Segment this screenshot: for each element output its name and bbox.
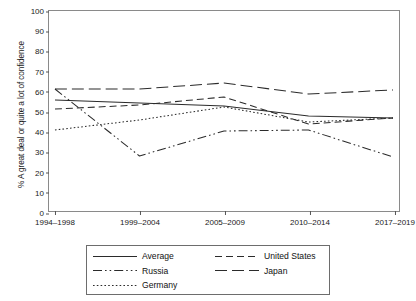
series-line-germany: [55, 107, 393, 130]
series-line-average: [55, 100, 393, 118]
legend-label: Russia: [142, 266, 168, 276]
legend-label: Germany: [142, 280, 177, 290]
dashed-line-swatch: [215, 252, 259, 261]
solid-line-swatch: [93, 252, 137, 261]
y-tick-label: 50: [35, 108, 49, 117]
legend-item-average[interactable]: Average: [93, 251, 215, 261]
x-tick-label: 1999–2004: [120, 211, 160, 227]
chart-figure: % A great deal or quite a lot of confide…: [0, 0, 416, 301]
chart-legend: AverageUnited StatesRussiaJapanGermany: [86, 245, 330, 295]
long-dash-line-swatch: [215, 266, 259, 275]
x-tick-label: 2010–2014: [290, 211, 330, 227]
y-tick-label: 10: [35, 188, 49, 197]
series-line-russia: [55, 89, 393, 157]
legend-item-russia[interactable]: Russia: [93, 266, 215, 276]
series-line-japan: [55, 83, 393, 94]
x-tick-label: 2005–2009: [205, 211, 245, 227]
plot-area: 0102030405060708090100 1994–19981999–200…: [48, 10, 400, 212]
y-tick-label: 80: [35, 47, 49, 56]
dash-dot-dot-line-swatch: [93, 266, 137, 275]
legend-item-germany[interactable]: Germany: [93, 280, 215, 290]
y-tick-label: 40: [35, 128, 49, 137]
y-tick-label: 70: [35, 67, 49, 76]
legend-label: Japan: [264, 266, 287, 276]
y-tick-label: 30: [35, 148, 49, 157]
legend-label: Average: [142, 251, 174, 261]
x-tick-label: 2017–2019: [375, 211, 415, 227]
series-line-united-states: [55, 97, 393, 124]
y-tick-label: 20: [35, 168, 49, 177]
legend-item-united-states[interactable]: United States: [215, 251, 337, 261]
y-tick-label: 90: [35, 27, 49, 36]
x-tick-label: 1994–1998: [35, 211, 75, 227]
dotted-line-swatch: [93, 281, 137, 290]
legend-label: United States: [264, 251, 316, 261]
y-tick-label: 100: [31, 7, 49, 16]
y-tick-label: 60: [35, 87, 49, 96]
legend-item-japan[interactable]: Japan: [215, 266, 337, 276]
series-lines: [49, 11, 399, 211]
y-axis-label: % A great deal or quite a lot of confide…: [17, 15, 26, 215]
